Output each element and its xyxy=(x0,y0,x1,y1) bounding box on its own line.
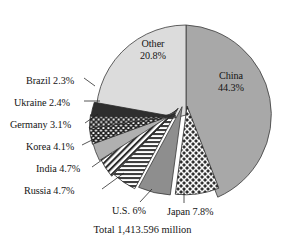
slice-label-china: China 44.3% xyxy=(200,70,262,93)
leader-line-us xyxy=(140,189,152,202)
slice-label-korea: Korea 4.1% xyxy=(26,141,74,153)
slice-label-russia: Russia 4.7% xyxy=(24,185,74,197)
slice-label-germany: Germany 3.1% xyxy=(10,119,71,131)
slice-label-china-name: China xyxy=(200,70,262,82)
slice-label-other-name: Other xyxy=(121,38,185,50)
slice-label-japan: Japan 7.8% xyxy=(167,206,213,218)
leader-line-brazil xyxy=(84,78,95,86)
total-caption: Total 1,413.596 million xyxy=(0,224,285,235)
slice-label-brazil: Brazil 2.3% xyxy=(26,75,74,87)
slice-label-other: Other 20.8% xyxy=(121,38,185,61)
slice-label-other-percent: 20.8% xyxy=(121,50,185,62)
slice-label-india: India 4.7% xyxy=(36,163,80,175)
slice-label-china-percent: 44.3% xyxy=(200,82,262,94)
pie-chart: Brazil 2.3% Ukraine 2.4% Germany 3.1% Ko… xyxy=(0,0,285,246)
slice-label-ukraine: Ukraine 2.4% xyxy=(14,97,70,109)
slice-label-us: U.S. 6% xyxy=(112,205,146,217)
